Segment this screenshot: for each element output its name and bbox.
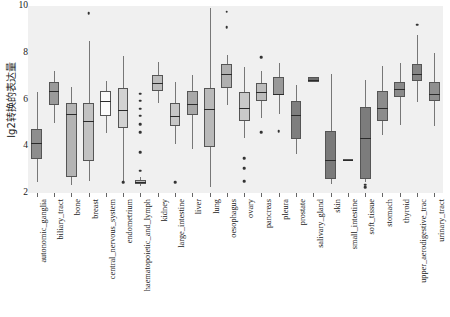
outlier-point bbox=[260, 131, 263, 134]
x-tick bbox=[37, 193, 38, 197]
whisker-low bbox=[244, 121, 245, 139]
x-axis-label-thyroid: thyroid bbox=[403, 199, 411, 223]
x-axis-label-urinary_tract: urinary_tract bbox=[438, 199, 446, 242]
x-axis-label-ovary: ovary bbox=[247, 199, 255, 218]
whisker-high bbox=[210, 8, 211, 87]
whisker-low bbox=[210, 147, 211, 187]
whisker-high bbox=[417, 35, 418, 64]
whisker-low bbox=[365, 179, 366, 183]
x-axis-label-small_intestine: small_intestine bbox=[351, 199, 359, 249]
median-line bbox=[256, 92, 267, 93]
x-axis-label-soft_tissue: soft_tissue bbox=[368, 199, 376, 235]
whisker-low bbox=[261, 101, 262, 119]
outlier-point bbox=[364, 186, 367, 189]
x-tick bbox=[261, 193, 262, 197]
x-axis-label-large_intestine: large_intestine bbox=[178, 199, 186, 248]
whisker-high bbox=[365, 80, 366, 107]
x-axis-label-haematopoietic_and_lymph: haematopoietic_and_lymph bbox=[144, 199, 152, 291]
median-line bbox=[394, 89, 405, 90]
whisker-high bbox=[37, 92, 38, 128]
box-ovary bbox=[239, 92, 250, 120]
whisker-low bbox=[417, 81, 418, 102]
whisker-high bbox=[227, 55, 228, 64]
outlier-point bbox=[139, 151, 142, 154]
whisker-high bbox=[106, 81, 107, 92]
outlier-point bbox=[139, 108, 142, 111]
x-tick bbox=[244, 193, 245, 197]
box-large_intestine bbox=[170, 103, 181, 126]
median-line bbox=[49, 91, 60, 92]
x-tick bbox=[158, 193, 159, 197]
outlier-point bbox=[139, 99, 142, 102]
x-axis-label-endometrium: endometrium bbox=[126, 199, 134, 243]
median-line bbox=[83, 121, 94, 122]
median-line bbox=[118, 110, 129, 111]
x-tick bbox=[140, 193, 141, 197]
median-line bbox=[100, 101, 111, 102]
x-tick bbox=[192, 193, 193, 197]
whisker-high bbox=[279, 63, 280, 77]
whisker-high bbox=[89, 41, 90, 103]
x-axis-label-upper_aerodigestive_trac: upper_aerodigestive_trac bbox=[420, 199, 428, 283]
x-tick bbox=[106, 193, 107, 197]
whisker-low bbox=[158, 91, 159, 103]
outlier-point bbox=[139, 115, 142, 118]
box-lung bbox=[204, 88, 215, 148]
whisker-low bbox=[279, 95, 280, 114]
whisker-high bbox=[382, 66, 383, 92]
median-line bbox=[135, 182, 146, 183]
whisker-low bbox=[296, 139, 297, 154]
x-axis-label-liver: liver bbox=[195, 199, 203, 214]
outlier-point bbox=[243, 157, 246, 160]
x-axis-label-skin: skin bbox=[334, 199, 342, 213]
whisker-high bbox=[192, 75, 193, 91]
x-tick bbox=[123, 193, 124, 197]
box-urinary_tract bbox=[429, 82, 440, 101]
x-tick bbox=[331, 193, 332, 197]
outlier-point bbox=[260, 56, 263, 59]
whisker-low bbox=[382, 121, 383, 135]
x-tick bbox=[54, 193, 55, 197]
whisker-low bbox=[37, 159, 38, 182]
median-line bbox=[291, 115, 302, 116]
outlier-point bbox=[243, 167, 246, 170]
whisker-low bbox=[71, 177, 72, 185]
whisker-high bbox=[261, 71, 262, 83]
whisker-low bbox=[89, 161, 90, 181]
x-axis-label-pleura: pleura bbox=[282, 199, 290, 220]
box-central_nervous_system bbox=[100, 91, 111, 116]
x-axis-label-kidney: kidney bbox=[161, 199, 169, 222]
median-line bbox=[239, 108, 250, 109]
whisker-high bbox=[71, 87, 72, 103]
x-tick bbox=[175, 193, 176, 197]
median-line bbox=[343, 160, 354, 161]
box-stomach bbox=[377, 91, 388, 120]
boxplot-figure: 246810 lg2转换的表达量 autonomic_gangliabiliar… bbox=[0, 0, 450, 317]
x-tick bbox=[296, 193, 297, 197]
x-tick bbox=[313, 193, 314, 197]
median-line bbox=[325, 160, 336, 161]
x-tick bbox=[227, 193, 228, 197]
box-biliary_tract bbox=[49, 82, 60, 105]
box-soft_tissue bbox=[360, 107, 371, 179]
whisker-low bbox=[400, 97, 401, 125]
whisker-high bbox=[434, 53, 435, 82]
x-axis-label-breast: breast bbox=[92, 199, 100, 219]
outlier-point bbox=[139, 92, 142, 95]
median-line bbox=[152, 83, 163, 84]
outlier-point bbox=[139, 169, 142, 172]
x-axis-label-pancreas: pancreas bbox=[265, 199, 273, 228]
median-line bbox=[412, 74, 423, 75]
x-axis-label-lung: lung bbox=[213, 199, 221, 214]
whisker-high bbox=[175, 82, 176, 103]
box-liver bbox=[187, 91, 198, 114]
box-endometrium bbox=[118, 88, 129, 128]
whisker-low bbox=[54, 105, 55, 123]
outlier-point bbox=[243, 180, 246, 183]
whisker-low bbox=[175, 126, 176, 144]
whisker-low bbox=[434, 101, 435, 127]
series-layer: autonomic_gangliabiliary_tractbonebreast… bbox=[0, 0, 450, 317]
whisker-low bbox=[331, 179, 332, 184]
outlier-point bbox=[226, 11, 229, 14]
whisker-low bbox=[192, 115, 193, 149]
